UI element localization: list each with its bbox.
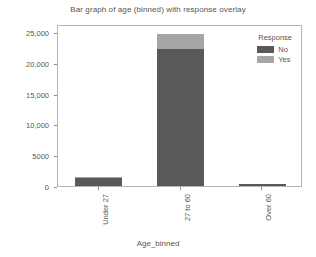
y-tick-label: 25,000 — [26, 29, 49, 38]
y-axis: 0500010,00015,00020,00025,000 — [0, 0, 57, 257]
legend-item: Yes — [257, 56, 292, 64]
bar-group — [157, 34, 204, 186]
legend-label: No — [278, 46, 288, 54]
y-tick-label: 15,000 — [26, 90, 49, 99]
y-tick-label: 0 — [45, 183, 49, 192]
x-tick-label: 27 to 60 — [183, 194, 192, 221]
legend: Response NoYes — [253, 32, 295, 70]
legend-swatch-yes — [257, 56, 274, 63]
bar-segment-no — [157, 49, 204, 186]
x-axis-title: Age_binned — [0, 239, 316, 248]
chart-figure: Bar graph of age (binned) with response … — [0, 0, 316, 257]
legend-label: Yes — [278, 56, 290, 64]
x-tick-mark — [180, 187, 181, 190]
legend-entries: NoYes — [257, 46, 292, 64]
x-tick-mark — [261, 187, 262, 190]
x-tick-label: Under 27 — [101, 194, 110, 225]
x-tick-label: Over 60 — [264, 194, 273, 221]
x-axis: Under 2727 to 60Over 60 — [57, 187, 302, 247]
y-tick-label: 5000 — [32, 152, 49, 161]
bar-segment-yes — [157, 34, 204, 49]
legend-title: Response — [258, 34, 292, 42]
y-tick-label: 10,000 — [26, 121, 49, 130]
plot-area: Response NoYes — [57, 25, 302, 187]
bar-group — [75, 177, 122, 186]
bar-group — [239, 184, 286, 187]
x-tick-mark — [98, 187, 99, 190]
y-tick-label: 20,000 — [26, 59, 49, 68]
bar-segment-no — [75, 178, 122, 186]
legend-item: No — [257, 46, 292, 54]
legend-swatch-no — [257, 46, 274, 53]
bar-segment-no — [239, 184, 286, 186]
